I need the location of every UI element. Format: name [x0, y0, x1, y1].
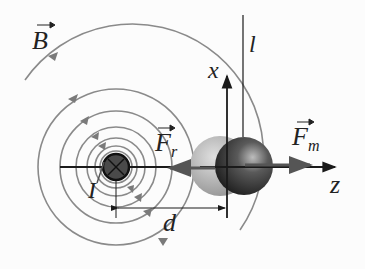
label-x-axis: x — [208, 58, 219, 82]
vector-arrow-icons — [37, 22, 314, 131]
label-magnetic-field: B — [32, 28, 48, 54]
wire-current-into-page-icon — [103, 154, 129, 180]
label-line: l — [249, 32, 256, 56]
force-r-symbol: F — [155, 128, 171, 157]
force-m-symbol: F — [292, 122, 308, 151]
force-m-subscript: m — [308, 137, 320, 154]
magnetic-force-diagram: B l x Fr Fm z I d — [0, 0, 365, 269]
label-z-axis: z — [330, 172, 340, 198]
force-r-subscript: r — [171, 143, 177, 160]
label-distance: d — [163, 210, 176, 236]
label-force-m: Fm — [292, 124, 319, 154]
label-force-r: Fr — [155, 130, 177, 160]
label-current: I — [88, 178, 96, 202]
arrow-icon — [68, 94, 78, 103]
arrow-icon — [158, 238, 168, 246]
field-direction-arrows — [48, 52, 168, 246]
